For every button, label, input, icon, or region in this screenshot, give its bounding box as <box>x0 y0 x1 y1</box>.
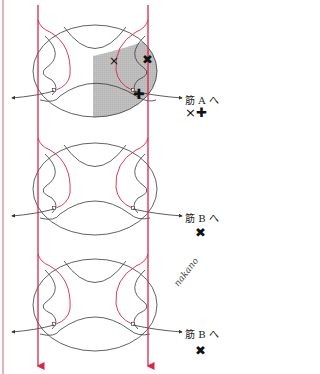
unit-2-target-label: 筋 B へ <box>185 210 219 225</box>
thin-x-mark: × <box>109 55 119 67</box>
unit-2-marks: ✖ <box>195 226 206 239</box>
unit-3-marks: ✖ <box>195 344 206 357</box>
unit-3-target-label: 筋 B へ <box>185 326 219 341</box>
bold-x-mark: ✖ <box>142 53 153 66</box>
bold-plus-mark: ✚ <box>133 87 145 101</box>
unit-1-marks: ×✚ <box>185 106 207 119</box>
